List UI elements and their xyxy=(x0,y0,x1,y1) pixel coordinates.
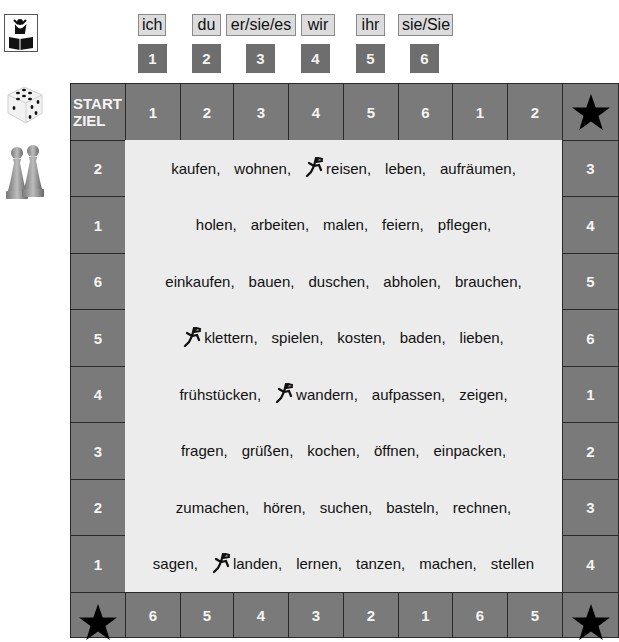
pronoun-number: 6 xyxy=(410,44,439,73)
board-cell[interactable]: 1 xyxy=(70,196,126,254)
board-cell[interactable]: 5 xyxy=(562,253,619,310)
verb-row: einkaufen,bauen,duschen,abholen,brauchen… xyxy=(125,253,562,309)
runner-icon xyxy=(305,157,325,179)
runner-icon xyxy=(183,327,203,349)
star-cell[interactable] xyxy=(562,592,619,638)
board-cell[interactable]: 5 xyxy=(180,592,234,638)
verb-word: lieben, xyxy=(460,329,504,346)
start-goal-cell[interactable]: STARTZIEL xyxy=(70,83,126,141)
board-cell[interactable]: 4 xyxy=(288,83,344,141)
verb-text: zeigen, xyxy=(459,386,507,403)
pronoun-label: ich xyxy=(138,14,166,36)
start-label: START xyxy=(73,95,122,112)
game-board: STARTZIEL 1 2 3 4 5 6 1 2 2 1 6 5 4 3 2 … xyxy=(70,83,619,638)
board-cell[interactable]: 4 xyxy=(562,535,619,593)
board-cell[interactable]: 4 xyxy=(233,592,289,638)
verb-word: reisen, xyxy=(305,157,371,179)
verb-text: lernen, xyxy=(296,555,342,572)
verb-word: spielen, xyxy=(272,329,324,346)
verb-text: spielen, xyxy=(272,329,324,346)
verb-text: einkaufen, xyxy=(165,273,234,290)
verb-row: frühstücken,wandern,aufpassen,zeigen, xyxy=(125,366,562,422)
board-cell[interactable]: 3 xyxy=(562,140,619,197)
verb-text: stellen xyxy=(491,555,534,572)
board-cell[interactable]: 5 xyxy=(70,309,126,367)
board-cell[interactable]: 5 xyxy=(343,83,399,141)
verb-word: rechnen, xyxy=(453,499,511,516)
star-cell[interactable] xyxy=(70,592,126,638)
verb-word: suchen, xyxy=(320,499,373,516)
board-cell[interactable]: 5 xyxy=(507,592,563,638)
pronoun-number: 4 xyxy=(301,44,330,73)
verb-word: kaufen, xyxy=(171,160,220,177)
runner-icon xyxy=(212,553,232,575)
board-cell[interactable]: 2 xyxy=(562,422,619,480)
pronoun-number: 2 xyxy=(192,44,221,73)
board-cell[interactable]: 4 xyxy=(562,196,619,254)
board-cell[interactable]: 2 xyxy=(70,140,126,197)
board-cell[interactable]: 3 xyxy=(70,422,126,480)
verb-word: zumachen, xyxy=(176,499,249,516)
verb-text: wohnen, xyxy=(234,160,291,177)
verb-text: holen, xyxy=(196,216,237,233)
verb-text: lieben, xyxy=(460,329,504,346)
board-cell[interactable]: 2 xyxy=(70,479,126,536)
verb-word: klettern, xyxy=(183,327,257,349)
pronoun-number: 1 xyxy=(138,44,167,73)
star-icon xyxy=(571,602,611,642)
verb-text: frühstücken, xyxy=(179,386,261,403)
verb-row: zumachen,hören,suchen,basteln,rechnen, xyxy=(125,479,562,535)
board-cell[interactable]: 2 xyxy=(180,83,234,141)
star-icon xyxy=(78,602,118,642)
dice-icon xyxy=(2,83,46,127)
verb-word: aufpassen, xyxy=(372,386,445,403)
verb-text: kaufen, xyxy=(171,160,220,177)
verb-text: wandern, xyxy=(296,386,358,403)
board-cell[interactable]: 2 xyxy=(507,83,563,141)
verb-word: baden, xyxy=(400,329,446,346)
pronoun-number: 5 xyxy=(356,44,385,73)
board-cell[interactable]: 1 xyxy=(398,592,453,638)
board-cell[interactable]: 2 xyxy=(343,592,399,638)
verb-text: basteln, xyxy=(386,499,439,516)
board-cell[interactable]: 1 xyxy=(125,83,181,141)
star-cell[interactable] xyxy=(562,83,619,141)
board-cell[interactable]: 4 xyxy=(70,366,126,423)
verb-word: bauen, xyxy=(249,273,295,290)
board-cell[interactable]: 1 xyxy=(562,366,619,423)
pronoun-label: sie/Sie xyxy=(398,14,453,36)
verb-word: tanzen, xyxy=(356,555,405,572)
verb-row: klettern,spielen,kosten,baden,lieben, xyxy=(125,310,562,366)
board-cell[interactable]: 3 xyxy=(288,592,344,638)
board-cell[interactable]: 6 xyxy=(125,592,181,638)
pronoun-label: du xyxy=(192,14,221,36)
star-icon xyxy=(571,92,611,132)
runner-icon xyxy=(275,383,295,405)
verb-word: hören, xyxy=(263,499,306,516)
verb-word: zeigen, xyxy=(459,386,507,403)
board-cell[interactable]: 6 xyxy=(398,83,453,141)
verb-word: öffnen, xyxy=(374,442,420,459)
pronoun-label: ihr xyxy=(356,14,385,36)
pronoun-label: er/sie/es xyxy=(226,14,296,36)
verb-word: sagen, xyxy=(153,555,198,572)
verb-word: pflegen, xyxy=(438,216,491,233)
verb-word: kosten, xyxy=(337,329,385,346)
board-cell[interactable]: 3 xyxy=(562,479,619,536)
verb-word: basteln, xyxy=(386,499,439,516)
verb-word: fragen, xyxy=(181,442,228,459)
verb-word: feiern, xyxy=(382,216,424,233)
verb-word: landen, xyxy=(212,553,282,575)
verb-text: bauen, xyxy=(249,273,295,290)
verb-word: stellen xyxy=(491,555,534,572)
game-book-icon xyxy=(4,14,38,52)
board-cell[interactable]: 6 xyxy=(70,253,126,310)
board-cell[interactable]: 1 xyxy=(452,83,508,141)
board-cell[interactable]: 1 xyxy=(70,535,126,593)
verb-text: zumachen, xyxy=(176,499,249,516)
verb-text: rechnen, xyxy=(453,499,511,516)
board-cell[interactable]: 3 xyxy=(233,83,289,141)
board-cell[interactable]: 6 xyxy=(562,309,619,367)
board-cell[interactable]: 6 xyxy=(452,592,508,638)
verb-text: kochen, xyxy=(307,442,360,459)
